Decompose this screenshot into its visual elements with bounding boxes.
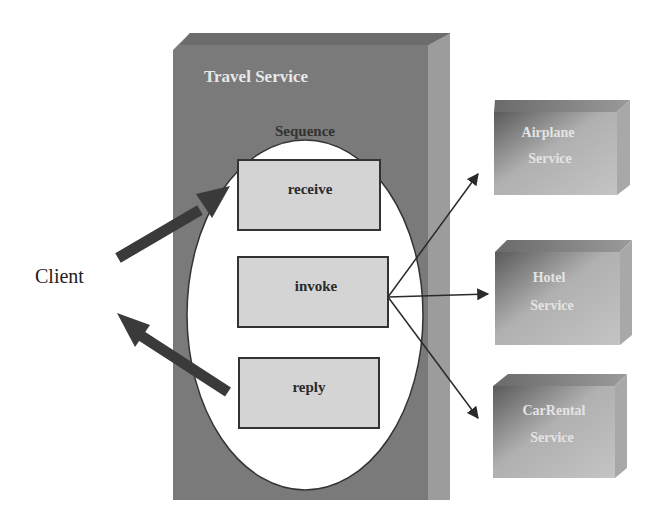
travel-service-title: Travel Service — [204, 67, 308, 86]
activity-invoke-label: invoke — [295, 278, 338, 294]
airplane-service-line1: Airplane — [522, 125, 575, 140]
hotel-service-box[interactable] — [495, 240, 632, 345]
carrental-service-line1: CarRental — [523, 403, 586, 418]
activity-receive-label: receive — [288, 181, 333, 197]
hotel-service-line1: Hotel — [533, 270, 566, 285]
airplane-service-line2: Service — [528, 151, 572, 166]
client-label: Client — [35, 265, 84, 287]
sequence-label: Sequence — [275, 123, 335, 139]
diagram-canvas: Travel Service Sequence receive invoke r… — [0, 0, 662, 525]
carrental-service-box[interactable] — [493, 374, 627, 478]
carrental-service-line2: Service — [530, 430, 574, 445]
activity-reply-label: reply — [292, 379, 326, 395]
hotel-service-line2: Service — [530, 298, 574, 313]
airplane-service-box[interactable] — [494, 100, 630, 195]
